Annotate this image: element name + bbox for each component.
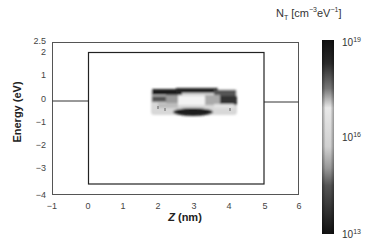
plot-area <box>0 0 383 247</box>
axes-frame <box>53 43 299 195</box>
barrier-box <box>89 53 265 185</box>
colorbar-title: NT [cm−3eV−1] <box>276 6 342 21</box>
colorbar <box>322 40 334 234</box>
colorbar-tick-min: 1013 <box>342 228 361 240</box>
colorbar-tick-max: 1019 <box>342 36 361 48</box>
trap-density-heatmap <box>151 88 237 116</box>
colorbar-tick-mid: 1016 <box>342 131 361 143</box>
